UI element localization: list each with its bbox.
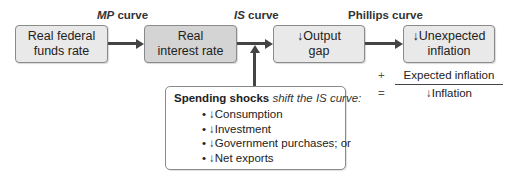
- bullet-icon: •: [202, 123, 206, 135]
- box-line: Real: [157, 29, 223, 44]
- box-line: gap: [297, 44, 341, 59]
- is-curve-label-italic: IS: [234, 9, 245, 21]
- spending-shocks-title: Spending shocks shift the IS curve:: [174, 92, 337, 104]
- is-curve-label-rest: curve: [245, 9, 279, 21]
- box-line: inflation: [413, 44, 486, 59]
- box-unexpected-inflation: ↓Unexpectedinflation: [403, 25, 495, 63]
- box-line: ↓Output: [297, 29, 341, 44]
- inflation-result: ↓Inflation: [395, 87, 503, 99]
- arrow-up-icon: [253, 52, 256, 86]
- box-line: ↓Unexpected: [413, 29, 486, 44]
- arrow-right-icon: [108, 42, 137, 45]
- mp-curve-label-rest: curve: [114, 9, 148, 21]
- box-real-interest-rate: Realinterest rate: [144, 25, 237, 63]
- equals-sign: =: [378, 87, 385, 99]
- box-line: Real federal: [28, 29, 95, 44]
- box-line: funds rate: [28, 44, 95, 59]
- box-line: interest rate: [157, 44, 223, 59]
- bullet-icon: •: [202, 108, 206, 120]
- list-item: •↓Net exports: [202, 151, 337, 166]
- sum-underline: [395, 84, 503, 85]
- spending-shocks-list: •↓Consumption •↓Investment •↓Government …: [174, 107, 337, 165]
- spending-shocks-box: Spending shocks shift the IS curve: •↓Co…: [165, 86, 346, 170]
- mp-curve-label-italic: MP: [97, 9, 114, 21]
- is-curve-label: IS curve: [234, 9, 279, 21]
- spending-shocks-title-italic: shift the IS curve:: [269, 92, 361, 104]
- spending-shocks-title-bold: Spending shocks: [174, 92, 269, 104]
- list-item: •↓Consumption: [202, 107, 337, 122]
- list-item-text: ↓Investment: [209, 123, 271, 135]
- box-output-gap: ↓Outputgap: [273, 25, 365, 63]
- list-item: •↓Investment: [202, 122, 337, 137]
- bullet-icon: •: [202, 152, 206, 164]
- list-item-text: ↓Consumption: [209, 108, 283, 120]
- bullet-icon: •: [202, 137, 206, 149]
- list-item-text: ↓Net exports: [209, 152, 274, 164]
- expected-inflation-term: Expected inflation: [395, 69, 503, 81]
- list-item: •↓Government purchases; or: [202, 136, 337, 151]
- mp-curve-label: MP curve: [97, 9, 148, 21]
- plus-sign: +: [378, 69, 385, 81]
- arrow-right-icon: [365, 42, 396, 45]
- list-item-text: ↓Government purchases; or: [209, 137, 351, 149]
- phillips-curve-label: Phillips curve: [348, 9, 423, 21]
- box-real-federal-funds-rate: Real federalfunds rate: [15, 25, 108, 63]
